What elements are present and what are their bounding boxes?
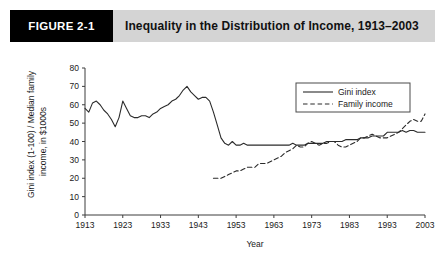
- x-tick-label: 1923: [113, 220, 132, 230]
- y-tick-label: 30: [70, 155, 80, 165]
- figure-number-label: FIGURE 2-1: [10, 10, 113, 42]
- x-axis-title: Year: [246, 239, 263, 249]
- x-tick-label: 1913: [76, 220, 95, 230]
- y-tick-label: 0: [74, 210, 79, 220]
- y-tick-label: 40: [70, 137, 80, 147]
- y-axis-title-line1: Gini index (1-100) / Median family: [26, 70, 36, 198]
- x-axis-ticks: 1913192319331943195319631973198319932003: [76, 215, 435, 230]
- y-axis-title-line2: income, in $1000s: [38, 107, 48, 176]
- y-axis-title: Gini index (1-100) / Median family incom…: [26, 70, 48, 198]
- legend-label-family-income: Family income: [338, 99, 393, 109]
- x-tick-label: 1943: [189, 220, 208, 230]
- x-tick-label: 2003: [416, 220, 435, 230]
- y-tick-label: 60: [70, 100, 80, 110]
- x-tick-label: 1973: [302, 220, 321, 230]
- legend-label-gini-index: Gini index: [338, 87, 377, 97]
- y-tick-label: 80: [70, 63, 80, 73]
- x-tick-label: 1993: [378, 220, 397, 230]
- income-inequality-line-chart: 01020304050607080 1913192319331943195319…: [0, 46, 445, 270]
- x-tick-label: 1933: [151, 220, 170, 230]
- y-tick-label: 10: [70, 192, 80, 202]
- figure-title: Inequality in the Distribution of Income…: [113, 10, 435, 42]
- x-tick-label: 1983: [340, 220, 359, 230]
- y-tick-label: 20: [70, 173, 80, 183]
- y-tick-label: 70: [70, 81, 80, 91]
- x-tick-label: 1963: [264, 220, 283, 230]
- chart-legend: Gini index Family income: [296, 83, 410, 112]
- x-tick-label: 1953: [227, 220, 246, 230]
- chart-container: 01020304050607080 1913192319331943195319…: [0, 46, 445, 270]
- y-tick-label: 50: [70, 118, 80, 128]
- y-axis-ticks: 01020304050607080: [70, 63, 85, 220]
- series-family-income: [213, 114, 425, 178]
- figure-header-banner: FIGURE 2-1 Inequality in the Distributio…: [10, 10, 435, 42]
